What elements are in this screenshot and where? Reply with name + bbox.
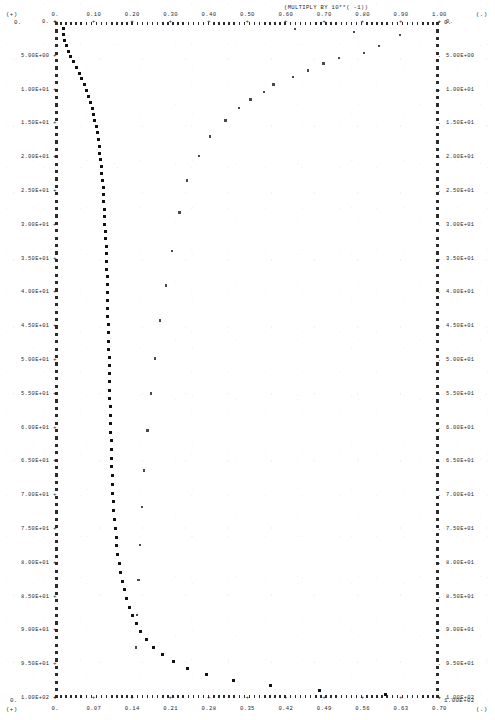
- data-point: [92, 113, 95, 116]
- data-point: [107, 348, 110, 351]
- bottom-tick-label: 0.21: [163, 706, 178, 712]
- data-point: [171, 250, 173, 252]
- right-tick-label: 4.00E+01: [446, 289, 474, 295]
- right-axis-tick: .: [437, 425, 441, 431]
- multiply-scale-note: (MULTIPLY BY 10**( -1)): [284, 4, 368, 11]
- bottom-axis-tick: +: [245, 695, 249, 701]
- top-axis-tick: +: [399, 19, 403, 25]
- right-tick-label: 5.50E+01: [446, 391, 474, 397]
- data-point: [91, 107, 94, 110]
- left-axis-tick: +: [53, 256, 57, 262]
- right-tick-label: 2.00E+01: [446, 154, 474, 160]
- right-tick-label: 6.50E+01: [446, 458, 474, 464]
- top-axis-tick: +: [130, 19, 134, 25]
- data-point: [108, 356, 111, 359]
- left-tick-label: 3.00E+01: [21, 222, 49, 228]
- data-point: [186, 179, 188, 181]
- right-axis-tick: .: [437, 323, 441, 329]
- left-axis-tick: +: [53, 661, 57, 667]
- data-point: [238, 107, 240, 109]
- data-point: [128, 606, 131, 609]
- data-point: [83, 83, 86, 86]
- right-tick-label: 5.00E+01: [446, 357, 474, 363]
- right-tick-label: 8.00E+01: [446, 560, 474, 566]
- data-point: [98, 145, 101, 148]
- left-axis-tick: +: [53, 425, 57, 431]
- left-axis-tick: +: [53, 357, 57, 363]
- left-tick-label: 6.00E+01: [21, 425, 49, 431]
- left-tick-label: 9.00E+01: [21, 627, 49, 633]
- top-axis-tick: +: [245, 19, 249, 25]
- data-point: [150, 392, 152, 394]
- data-point: [85, 89, 88, 92]
- right-tick-label: 0.: [446, 19, 453, 25]
- data-point: [100, 165, 103, 168]
- right-tick-label: 9.50E+01: [446, 661, 474, 667]
- data-point: [104, 237, 107, 240]
- data-point: [67, 50, 70, 53]
- corner-marker-bottom-right: (.): [476, 706, 488, 713]
- bottom-tick-label: 0.14: [125, 706, 140, 712]
- left-axis-tick: +: [53, 222, 57, 228]
- bottom-tick-label: 0.: [52, 706, 59, 712]
- right-axis-tick: .: [437, 695, 441, 701]
- data-point: [108, 389, 111, 392]
- right-tick-label: 7.50E+01: [446, 526, 474, 532]
- corner-marker-bottom-left: (+): [6, 706, 18, 713]
- left-axis-tick: +: [53, 53, 57, 59]
- left-tick-label: 7.50E+01: [21, 526, 49, 532]
- data-point: [103, 208, 106, 211]
- left-tick-label: 1.00E+02: [21, 695, 49, 701]
- left-axis-tick: +: [53, 188, 57, 194]
- data-point: [107, 323, 110, 326]
- data-point: [121, 580, 124, 583]
- data-point: [113, 518, 116, 521]
- left-axis-tick: +: [53, 594, 57, 600]
- right-axis-tick: .: [437, 458, 441, 464]
- data-point: [107, 331, 110, 334]
- data-point: [95, 125, 98, 128]
- data-point: [131, 614, 134, 617]
- top-axis-tick: +: [92, 19, 96, 25]
- bottom-tick-label: 0.35: [240, 706, 255, 712]
- data-point: [172, 660, 175, 663]
- corner-marker-top-right: (.): [476, 11, 488, 18]
- data-point: [125, 597, 128, 600]
- bottom-axis-tick: +: [399, 695, 403, 701]
- data-point: [272, 83, 274, 85]
- right-axis-tick: .: [437, 87, 441, 93]
- bottom-tick-label: 0.63: [394, 706, 409, 712]
- data-point: [106, 291, 109, 294]
- data-point: [93, 119, 96, 122]
- data-point: [154, 357, 156, 359]
- data-point: [110, 439, 113, 442]
- data-point: [123, 588, 126, 591]
- data-point: [114, 527, 117, 530]
- right-tick-label: 2.50E+01: [446, 188, 474, 194]
- bottom-axis-tick: +: [361, 695, 365, 701]
- right-axis-tick: .: [437, 661, 441, 667]
- data-point: [104, 230, 107, 233]
- corner-value-top-left: 0.: [14, 19, 22, 26]
- data-point: [63, 39, 66, 42]
- bottom-tick-label: 0.28: [202, 706, 217, 712]
- left-tick-label: 8.50E+01: [21, 594, 49, 600]
- data-point: [152, 646, 155, 649]
- left-tick-label: 5.00E+00: [21, 53, 49, 59]
- data-point: [80, 77, 83, 80]
- right-tick-label: 3.00E+01: [446, 222, 474, 228]
- data-point: [318, 689, 321, 692]
- bottom-axis-tick: +: [284, 695, 288, 701]
- bottom-axis-tick: +: [207, 695, 211, 701]
- right-tick-label: 1.00E+02: [446, 695, 474, 701]
- data-point: [111, 483, 114, 486]
- right-axis-tick: .: [437, 357, 441, 363]
- data-point: [263, 91, 265, 93]
- right-tick-label: 4.50E+01: [446, 323, 474, 329]
- data-point: [112, 509, 115, 512]
- left-tick-label: 1.00E+01: [21, 87, 49, 93]
- bottom-tick-label: 0.56: [355, 706, 370, 712]
- data-point: [115, 536, 118, 539]
- left-axis-tick: +: [53, 323, 57, 329]
- data-point: [232, 679, 235, 682]
